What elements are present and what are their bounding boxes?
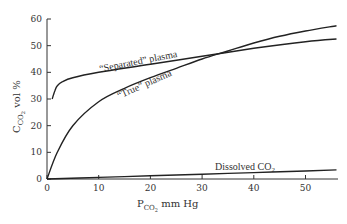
y-tick-label: 40	[31, 67, 43, 77]
y-axis-label: CCO2 vol %	[11, 80, 26, 133]
x-tick-label: 10	[93, 183, 105, 193]
y-tick-label: 30	[31, 94, 43, 104]
co2-dissociation-chart: 0102030405060 01020304050 “Separated” pl…	[0, 0, 347, 224]
x-tick-label: 40	[248, 183, 260, 193]
x-tick-label: 0	[44, 183, 50, 193]
y-tick-label: 20	[31, 121, 43, 131]
separated-plasma-curve	[52, 39, 336, 99]
y-ticks: 0102030405060	[31, 14, 51, 184]
x-tick-label: 50	[300, 183, 312, 193]
x-axis-label: PCO2 mm Hg	[137, 198, 199, 213]
x-tick-label: 20	[145, 183, 157, 193]
dissolved-co2-curve	[47, 170, 337, 179]
y-tick-label: 0	[36, 174, 42, 184]
true-plasma-label: “True” plasma	[115, 67, 173, 101]
x-tick-label: 30	[196, 183, 208, 193]
y-tick-label: 60	[31, 14, 43, 24]
y-tick-label: 10	[31, 147, 43, 157]
y-tick-label: 50	[31, 41, 43, 51]
curves	[47, 26, 337, 179]
true-plasma-curve	[47, 26, 337, 179]
